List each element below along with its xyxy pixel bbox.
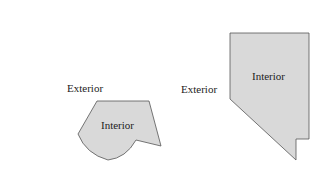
right-exterior-label: Exterior: [181, 83, 217, 95]
left-interior-label: Interior: [101, 119, 134, 131]
right-region-shape: [230, 33, 309, 160]
region-diagram: [0, 0, 314, 174]
left-exterior-label: Exterior: [67, 82, 103, 94]
right-interior-label: Interior: [252, 70, 285, 82]
